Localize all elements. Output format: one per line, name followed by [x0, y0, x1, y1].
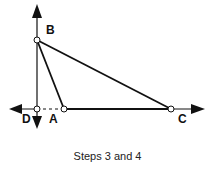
label-A: A — [49, 113, 58, 125]
segment-BA — [37, 40, 64, 109]
point-C — [168, 106, 174, 112]
segment-BC — [37, 40, 171, 109]
arrow-right-icon — [191, 104, 205, 114]
arrow-left-icon — [9, 104, 22, 114]
arrow-up-icon — [32, 4, 42, 18]
label-B: B — [46, 24, 55, 36]
point-B — [34, 37, 40, 43]
figure-caption: Steps 3 and 4 — [0, 150, 215, 162]
point-A — [61, 106, 67, 112]
geometry-figure — [0, 0, 215, 172]
point-D — [34, 106, 40, 112]
label-D: D — [22, 113, 31, 125]
label-C: C — [178, 113, 187, 125]
arrow-down-icon — [32, 116, 42, 129]
